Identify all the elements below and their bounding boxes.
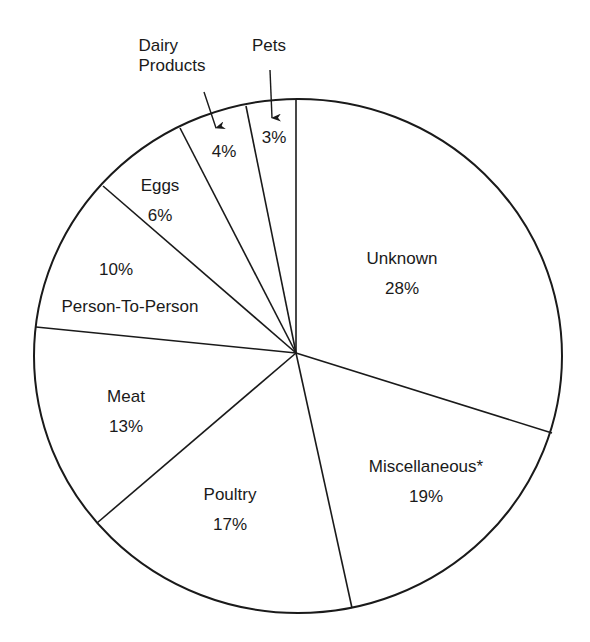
slice-label-poultry: Poultry 17% [204, 480, 257, 540]
slice-label-miscellaneous: Miscellaneous* 19% [369, 452, 483, 512]
slice-label-unknown: Unknown 28% [367, 244, 438, 304]
slice-label-meat: Meat 13% [107, 382, 145, 442]
callout-dairy-products: Dairy Products [138, 36, 205, 76]
callout-pets: Pets [252, 36, 286, 56]
slice-label-pets-value: 3% [262, 128, 287, 148]
slice-label-person-to-person: Person-To-Person [61, 297, 198, 317]
slice-label-dairy-value: 4% [212, 142, 237, 162]
slice-label-eggs: Eggs 6% [141, 171, 180, 231]
pie-chart [0, 0, 590, 642]
slice-label-person-to-person-value: 10% [99, 260, 133, 280]
pie-outline [34, 99, 562, 613]
